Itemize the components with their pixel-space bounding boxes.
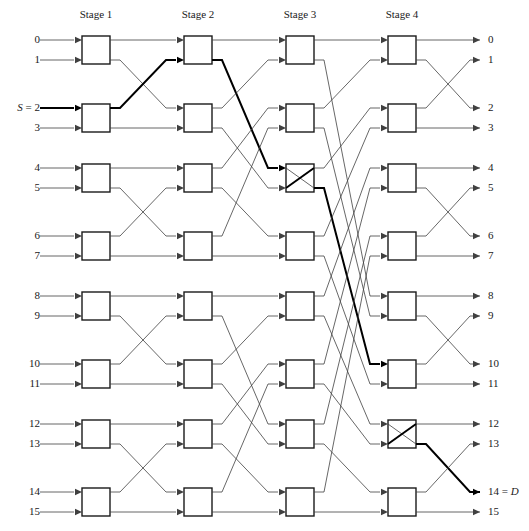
output-label-5: 5 — [488, 181, 494, 193]
input-label-1: 1 — [6, 53, 40, 65]
output-label-3: 3 — [488, 121, 494, 133]
output-label-15: 15 — [488, 505, 499, 517]
input-label-10: 10 — [6, 357, 40, 369]
destination-label: 14 = D — [488, 485, 519, 497]
destination-text: 14 = D — [488, 485, 519, 497]
output-label-7: 7 — [488, 249, 494, 261]
input-label-8: 8 — [6, 289, 40, 301]
input-label-4: 4 — [6, 161, 40, 173]
input-label-0: 0 — [6, 33, 40, 45]
input-label-12: 12 — [6, 417, 40, 429]
input-label-5: 5 — [6, 181, 40, 193]
input-label-6: 6 — [6, 229, 40, 241]
input-label-9: 9 — [6, 309, 40, 321]
output-label-4: 4 — [488, 161, 494, 173]
output-label-10: 10 — [488, 357, 499, 369]
output-label-11: 11 — [488, 377, 499, 389]
network-diagram: Stage 1 Stage 2 Stage 3 Stage 4 0 1 S = … — [0, 0, 529, 531]
wiring-canvas — [0, 0, 529, 531]
output-label-12: 12 — [488, 417, 499, 429]
output-label-0: 0 — [488, 33, 494, 45]
input-label-7: 7 — [6, 249, 40, 261]
output-label-8: 8 — [488, 289, 494, 301]
input-label-13: 13 — [6, 437, 40, 449]
input-label-14: 14 — [6, 485, 40, 497]
output-label-2: 2 — [488, 101, 494, 113]
output-label-13: 13 — [488, 437, 499, 449]
output-label-6: 6 — [488, 229, 494, 241]
output-label-1: 1 — [488, 53, 494, 65]
input-label-3: 3 — [6, 121, 40, 133]
input-label-15: 15 — [6, 505, 40, 517]
output-label-9: 9 — [488, 309, 494, 321]
input-label-11: 11 — [6, 377, 40, 389]
source-label: S = 2 — [17, 101, 40, 113]
input-label-2: S = 2 — [0, 101, 40, 113]
